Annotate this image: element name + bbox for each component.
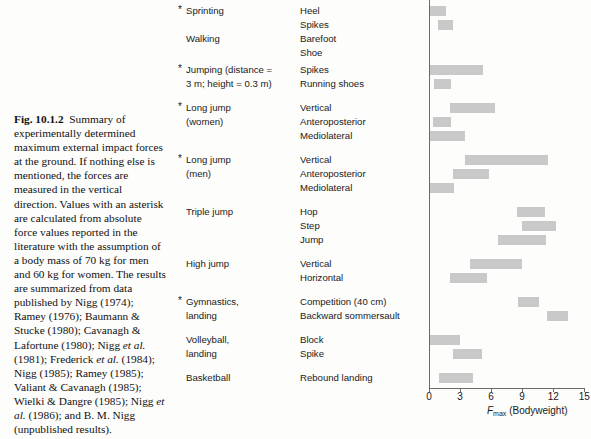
- activity-label: landing: [186, 347, 298, 361]
- condition-label: Heel: [300, 4, 428, 18]
- chart-row: Horizontal: [0, 271, 591, 285]
- condition-label: Rebound landing: [300, 371, 428, 385]
- range-bar: [430, 65, 483, 75]
- chart-row: WalkingBarefoot: [0, 32, 591, 46]
- condition-label: Hop: [300, 205, 428, 219]
- condition-label: Shoe: [300, 46, 428, 60]
- x-axis-label-symbol: F: [487, 405, 493, 416]
- range-bar: [522, 221, 556, 231]
- condition-label: Barefoot: [300, 32, 428, 46]
- activity-label: landing: [186, 309, 298, 323]
- condition-label: Vertical: [300, 101, 428, 115]
- x-axis-tick: [584, 388, 585, 392]
- chart-row: *SprintingHeel: [0, 4, 591, 18]
- range-bar: [430, 6, 446, 16]
- chart-row: *Long jumpVertical: [0, 153, 591, 167]
- range-bar: [430, 335, 460, 345]
- chart-row: Volleyball,Block: [0, 333, 591, 347]
- condition-label: Horizontal: [300, 271, 428, 285]
- activity-label: (men): [186, 167, 298, 181]
- x-axis-tick-label: 6: [488, 391, 494, 402]
- range-bar: [439, 373, 473, 383]
- condition-label: Spikes: [300, 18, 428, 32]
- condition-label: Competition (40 cm): [300, 295, 428, 309]
- condition-label: Spikes: [300, 63, 428, 77]
- activity-label: (women): [186, 115, 298, 129]
- asterisk-marker: *: [178, 62, 182, 76]
- x-axis-tick: [460, 388, 461, 392]
- chart-row: Step: [0, 219, 591, 233]
- x-axis-tick: [491, 388, 492, 392]
- x-axis-tick: [553, 388, 554, 392]
- condition-label: Vertical: [300, 257, 428, 271]
- range-bar: [498, 235, 546, 245]
- caption-text-4: (1986); and B. M. Nigg (unpublished resu…: [14, 409, 135, 435]
- condition-label: Jump: [300, 233, 428, 247]
- condition-label: Running shoes: [300, 77, 428, 91]
- x-axis-tick: [429, 388, 430, 392]
- asterisk-marker: *: [178, 100, 182, 114]
- activity-label: *Long jump: [186, 153, 298, 167]
- chart-row: BasketballRebound landing: [0, 371, 591, 385]
- range-bar: [429, 183, 454, 193]
- range-bar: [450, 103, 496, 113]
- range-bar: [438, 20, 452, 30]
- range-bar: [470, 259, 522, 269]
- range-bar: [453, 349, 482, 359]
- x-axis-tick: [522, 388, 523, 392]
- x-axis-tick-label: 0: [426, 391, 432, 402]
- chart-row: *Jumping (distance =Spikes: [0, 63, 591, 77]
- range-bar: [517, 207, 545, 217]
- activity-label: Triple jump: [186, 205, 298, 219]
- asterisk-marker: *: [178, 3, 182, 17]
- range-bar: [465, 155, 548, 165]
- activity-label: *Sprinting: [186, 4, 298, 18]
- figure-container: Fig. 10.1.2Summary of experimentally det…: [0, 0, 591, 439]
- range-bar: [434, 79, 451, 89]
- x-axis-tick-label: 3: [457, 391, 463, 402]
- condition-label: Step: [300, 219, 428, 233]
- chart-row: Jump: [0, 233, 591, 247]
- range-bar: [450, 273, 487, 283]
- condition-label: Anteroposterior: [300, 115, 428, 129]
- range-bar: [433, 117, 451, 127]
- activity-label: *Long jump: [186, 101, 298, 115]
- condition-label: Mediolateral: [300, 181, 428, 195]
- range-bar: [430, 131, 465, 141]
- chart-row: Spikes: [0, 18, 591, 32]
- range-bar: [518, 297, 539, 307]
- x-axis-tick-label: 15: [579, 391, 590, 402]
- chart-row: landingSpike: [0, 347, 591, 361]
- activity-label: *Jumping (distance =: [186, 63, 298, 77]
- chart-row: Triple jumpHop: [0, 205, 591, 219]
- condition-label: Mediolateral: [300, 129, 428, 143]
- activity-label: 3 m; height = 0.3 m): [186, 77, 298, 91]
- activity-label: *Gymnastics,: [186, 295, 298, 309]
- condition-label: Block: [300, 333, 428, 347]
- chart-row: *Long jumpVertical: [0, 101, 591, 115]
- activity-label: Basketball: [186, 371, 298, 385]
- chart-rows: *SprintingHeelSpikesWalkingBarefootShoe*…: [0, 0, 591, 380]
- x-axis-label-unit: (Bodyweight): [509, 405, 567, 416]
- chart-row: Shoe: [0, 46, 591, 60]
- range-bar: [453, 169, 489, 179]
- chart-row: (women)Anteroposterior: [0, 115, 591, 129]
- asterisk-marker: *: [178, 152, 182, 166]
- chart-row: High jumpVertical: [0, 257, 591, 271]
- chart-row: 3 m; height = 0.3 m)Running shoes: [0, 77, 591, 91]
- activity-label: High jump: [186, 257, 298, 271]
- activity-label: Walking: [186, 32, 298, 46]
- x-axis-tick-label: 9: [519, 391, 525, 402]
- chart-row: landingBackward sommersault: [0, 309, 591, 323]
- chart-row: *Gymnastics,Competition (40 cm): [0, 295, 591, 309]
- chart-row: Mediolateral: [0, 129, 591, 143]
- range-bar: [547, 311, 568, 321]
- condition-label: Anteroposterior: [300, 167, 428, 181]
- x-axis-label: Fmax (Bodyweight): [487, 405, 567, 417]
- condition-label: Backward sommersault: [300, 309, 428, 323]
- asterisk-marker: *: [178, 294, 182, 308]
- condition-label: Vertical: [300, 153, 428, 167]
- x-axis-tick-label: 12: [548, 391, 559, 402]
- x-axis-label-subscript: max: [493, 410, 506, 417]
- condition-label: Spike: [300, 347, 428, 361]
